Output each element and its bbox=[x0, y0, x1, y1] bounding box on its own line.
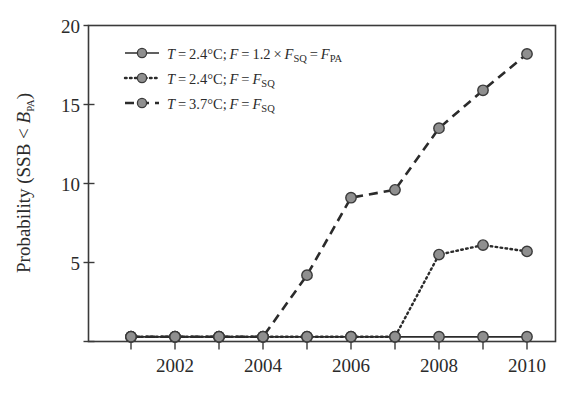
legend-label-2: T = 3.7°C; F = FSQ bbox=[167, 96, 275, 115]
y-axis-title-suffix: ) bbox=[13, 93, 35, 99]
data-point bbox=[478, 240, 488, 250]
y-axis-title-subscript: PA bbox=[25, 99, 36, 112]
x-tick-label-2006: 2006 bbox=[332, 355, 370, 376]
data-point bbox=[258, 332, 268, 342]
data-point bbox=[302, 332, 312, 342]
legend-marker-point bbox=[137, 73, 146, 82]
x-tick-label-2002: 2002 bbox=[156, 355, 194, 376]
data-point bbox=[434, 123, 444, 133]
data-point bbox=[434, 249, 444, 259]
y-axis-title: Probability (SSB < BPA) bbox=[13, 93, 36, 273]
legend-marker-point bbox=[137, 48, 146, 57]
data-point bbox=[434, 332, 444, 342]
data-point bbox=[478, 332, 488, 342]
legend-entry-2: T = 3.7°C; F = FSQ bbox=[125, 96, 275, 115]
y-axis-title-symbol: B bbox=[13, 111, 34, 123]
data-point bbox=[522, 246, 532, 256]
x-axis-ticks bbox=[131, 342, 527, 350]
y-tick-label-10: 10 bbox=[61, 174, 80, 195]
data-point bbox=[346, 193, 356, 203]
data-point bbox=[170, 332, 180, 342]
data-point bbox=[390, 185, 400, 195]
data-point bbox=[522, 332, 532, 342]
legend-entry-0: T = 2.4°C; F = 1.2 × FSQ = FPA bbox=[125, 46, 343, 65]
series-line-dotted bbox=[131, 245, 527, 337]
x-axis-tick-labels: 20022004200620082010 bbox=[156, 355, 546, 376]
legend-entry-1: T = 2.4°C; F = FSQ bbox=[125, 71, 275, 90]
data-point bbox=[522, 49, 532, 59]
series-2 bbox=[126, 49, 532, 342]
data-point bbox=[346, 332, 356, 342]
y-tick-label-20: 20 bbox=[61, 16, 80, 37]
probability-line-chart: 5101520 20022004200620082010 Probability… bbox=[0, 0, 572, 411]
data-point bbox=[302, 270, 312, 280]
y-axis-title-prefix: Probability (SSB < bbox=[13, 123, 35, 273]
legend-marker-point bbox=[137, 98, 146, 107]
y-tick-label-5: 5 bbox=[71, 253, 81, 274]
figure-container: 5101520 20022004200620082010 Probability… bbox=[0, 0, 572, 411]
data-point bbox=[390, 332, 400, 342]
x-tick-label-2010: 2010 bbox=[508, 355, 546, 376]
x-tick-label-2008: 2008 bbox=[420, 355, 458, 376]
data-series-layer bbox=[126, 49, 532, 342]
legend-label-0: T = 2.4°C; F = 1.2 × FSQ = FPA bbox=[167, 46, 343, 65]
plot-frame bbox=[89, 26, 556, 342]
svg-text:Probability (SSB < BPA): Probability (SSB < BPA) bbox=[13, 93, 36, 273]
data-point bbox=[214, 332, 224, 342]
legend-label-1: T = 2.4°C; F = FSQ bbox=[167, 71, 275, 90]
data-point bbox=[478, 85, 488, 95]
series-1 bbox=[126, 240, 532, 342]
y-axis-tick-labels: 5101520 bbox=[61, 16, 80, 274]
data-point bbox=[126, 332, 136, 342]
chart-legend: T = 2.4°C; F = 1.2 × FSQ = FPAT = 2.4°C;… bbox=[125, 46, 343, 115]
y-tick-label-15: 15 bbox=[61, 95, 80, 116]
x-tick-label-2004: 2004 bbox=[244, 355, 283, 376]
